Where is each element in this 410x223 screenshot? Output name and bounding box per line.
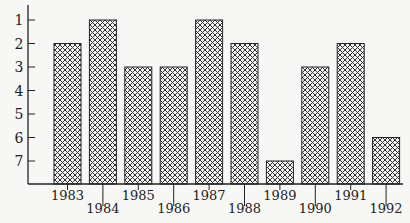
- x-tick-label: 1986: [157, 201, 190, 216]
- bar-1988: [231, 44, 258, 185]
- x-tick-label: 1984: [86, 201, 119, 216]
- y-axis: 1234567: [15, 5, 35, 184]
- y-tick-label: 4: [15, 83, 24, 99]
- x-tick-label: 1985: [122, 188, 155, 203]
- bar-1983: [54, 44, 81, 185]
- y-tick-label: 6: [15, 130, 24, 146]
- x-tick-label: 1989: [263, 188, 296, 203]
- x-tick-label: 1987: [193, 188, 226, 203]
- y-tick-label: 2: [15, 36, 24, 52]
- bar-1985: [125, 67, 152, 184]
- x-tick-label: 1991: [334, 188, 367, 203]
- bar-1989: [266, 161, 293, 184]
- y-tick-label: 5: [15, 106, 24, 122]
- x-axis: 1983198419851986198719881989199019911992: [28, 184, 403, 216]
- y-tick-label: 3: [15, 59, 24, 75]
- bar-1990: [302, 67, 329, 184]
- bar-1991: [337, 44, 364, 185]
- x-tick-label: 1992: [370, 201, 403, 216]
- bar-1984: [89, 20, 116, 184]
- bar-1986: [160, 67, 187, 184]
- y-tick-label: 7: [15, 153, 24, 169]
- bar-1987: [196, 20, 223, 184]
- x-tick-label: 1988: [228, 201, 261, 216]
- x-tick-label: 1990: [299, 201, 332, 216]
- y-tick-label: 1: [15, 12, 24, 28]
- x-tick-label: 1983: [51, 188, 84, 203]
- bar-chart: 1234567 19831984198519861987198819891990…: [0, 0, 410, 223]
- bar-1992: [373, 138, 400, 185]
- bars: [54, 20, 400, 184]
